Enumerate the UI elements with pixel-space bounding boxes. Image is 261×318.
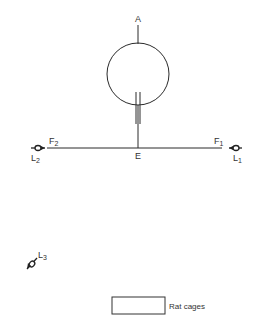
label-l2: L2 bbox=[31, 153, 40, 164]
light-l1-icon bbox=[229, 146, 242, 151]
light-l3-icon bbox=[27, 258, 37, 269]
label-l1: L1 bbox=[233, 153, 242, 164]
apparatus-diagram: A E F2 F1 L2 L1 L3 Rat cages bbox=[0, 0, 261, 318]
label-l3: L3 bbox=[38, 250, 47, 261]
rat-cages-legend-label: Rat cages bbox=[169, 302, 205, 311]
light-l2-icon bbox=[31, 146, 45, 151]
circular-arena bbox=[107, 43, 169, 105]
label-e: E bbox=[135, 151, 141, 161]
label-f1: F1 bbox=[214, 136, 224, 147]
label-a: A bbox=[135, 14, 141, 24]
rat-cages-legend-box bbox=[112, 297, 165, 314]
label-f2: F2 bbox=[49, 136, 59, 147]
